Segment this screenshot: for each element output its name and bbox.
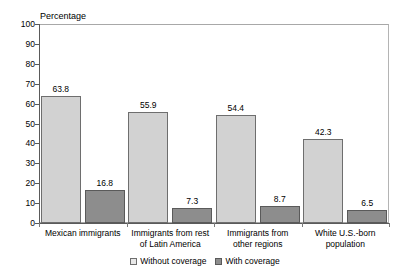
y-axis-tick-labels: 0102030405060708090100 bbox=[0, 0, 35, 274]
x-axis-category-label: Immigrants fromother regions bbox=[214, 228, 302, 250]
legend-item[interactable]: Without coverage bbox=[130, 256, 206, 266]
bar bbox=[303, 139, 343, 223]
y-axis-tick-label: 70 bbox=[26, 79, 35, 88]
legend-item-label: With coverage bbox=[225, 256, 279, 266]
bar-value-label: 63.8 bbox=[41, 84, 81, 94]
legend-swatch-icon bbox=[130, 258, 137, 265]
bar bbox=[41, 96, 81, 223]
y-axis-tick-label: 50 bbox=[26, 119, 35, 128]
y-axis-title: Percentage bbox=[40, 11, 86, 22]
y-axis-tick-label: 60 bbox=[26, 99, 35, 108]
bar-value-label: 8.7 bbox=[260, 194, 300, 204]
bar bbox=[128, 112, 168, 223]
bar bbox=[260, 206, 300, 223]
x-axis-category-label: White U.S.-bornpopulation bbox=[302, 228, 390, 250]
x-axis-category-label: Immigrants from restof Latin America bbox=[127, 228, 215, 250]
x-axis-tick-mark bbox=[39, 223, 40, 227]
x-axis-tick-mark bbox=[389, 223, 390, 227]
legend-item-label: Without coverage bbox=[140, 256, 206, 266]
bar-value-label: 7.3 bbox=[172, 196, 212, 206]
bar bbox=[85, 190, 125, 223]
x-axis-tick-mark bbox=[214, 223, 215, 227]
y-axis-tick-label: 90 bbox=[26, 39, 35, 48]
bar-value-label: 16.8 bbox=[85, 178, 125, 188]
bar-value-label: 42.3 bbox=[303, 127, 343, 137]
y-axis-tick-label: 30 bbox=[26, 159, 35, 168]
bar bbox=[347, 210, 387, 223]
y-axis-tick-label: 100 bbox=[21, 20, 35, 29]
legend-item[interactable]: With coverage bbox=[215, 256, 279, 266]
bar bbox=[216, 115, 256, 223]
x-axis-tick-mark bbox=[127, 223, 128, 227]
legend-swatch-icon bbox=[215, 258, 222, 265]
x-axis-tick-mark bbox=[302, 223, 303, 227]
y-axis-tick-label: 20 bbox=[26, 179, 35, 188]
y-axis-tick-label: 40 bbox=[26, 139, 35, 148]
x-axis-category-label: Mexican immigrants bbox=[39, 228, 127, 239]
bar-value-label: 6.5 bbox=[347, 198, 387, 208]
bar-chart: Percentage 0102030405060708090100 63.816… bbox=[0, 0, 410, 274]
bar-value-label: 55.9 bbox=[128, 100, 168, 110]
bar-value-label: 54.4 bbox=[216, 103, 256, 113]
y-axis-tick-label: 10 bbox=[26, 199, 35, 208]
chart-legend: Without coverageWith coverage bbox=[0, 256, 410, 266]
y-axis-tick-label: 80 bbox=[26, 59, 35, 68]
bars-layer bbox=[39, 24, 389, 223]
bar bbox=[172, 208, 212, 223]
